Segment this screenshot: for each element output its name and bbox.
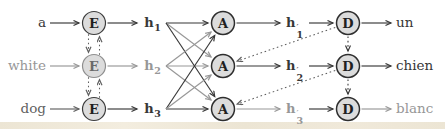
state-subscript: 2 [296, 74, 303, 82]
decoder-letter-1: D [342, 16, 353, 31]
state-subscript: 3 [154, 108, 161, 119]
state-subscript: 1 [296, 31, 303, 39]
edge-h1-A3 [166, 23, 215, 96]
encoder-letter-2: E [89, 59, 99, 74]
input-word-1: a [4, 14, 46, 31]
state-base: h [286, 58, 295, 73]
state-base: h [144, 101, 153, 116]
decoder-letter-3: D [342, 102, 353, 117]
edge-h2-A1 [166, 32, 211, 66]
input-word-2: white [4, 57, 46, 74]
attention-letter-3: A [217, 102, 229, 117]
attention-letter-1: A [217, 16, 229, 31]
attention-nodes: A A A [212, 12, 235, 121]
encoder-nodes: E E E [83, 12, 106, 121]
input-word-3: dog [4, 100, 46, 117]
output-word-3: blanc [396, 100, 442, 117]
edge-h3-A2 [166, 75, 211, 109]
state-base: h [144, 58, 153, 73]
output-word-1: un [396, 14, 442, 31]
encoder-state-label-3: h3 [139, 100, 166, 117]
prime-subscript-stack: ′3 [296, 112, 303, 125]
state-subscript: 2 [154, 65, 161, 76]
encoder-letter-3: E [89, 102, 99, 117]
decoder-letter-2: D [342, 59, 353, 74]
decoder-state-label-2: h′2 [280, 57, 309, 74]
edge-h2-A3 [166, 66, 211, 100]
decoder-state-label-1: h′1 [280, 14, 309, 31]
state-subscript: 3 [296, 117, 303, 125]
decoder-nodes: D D D [337, 12, 360, 121]
diagram-canvas: E E E A A A D D D [0, 0, 445, 129]
seq2seq-attention-diagram: E E E A A A D D D a white dog h1 h2 h3 h… [0, 0, 445, 129]
attention-letter-2: A [217, 59, 229, 74]
prime-subscript-stack: ′1 [296, 26, 303, 39]
encoder-state-label-2: h2 [139, 57, 166, 74]
encoder-state-label-1: h1 [139, 14, 166, 31]
state-subscript: 1 [154, 22, 161, 33]
prime-subscript-stack: ′2 [296, 69, 303, 82]
decoder-state-label-3: h′3 [280, 100, 309, 117]
state-base: h [144, 15, 153, 30]
output-word-2: chien [396, 57, 442, 74]
edge-h3-A1 [166, 36, 215, 109]
state-base: h [286, 15, 295, 30]
encoder-letter-1: E [89, 16, 99, 31]
state-base: h [286, 101, 295, 116]
